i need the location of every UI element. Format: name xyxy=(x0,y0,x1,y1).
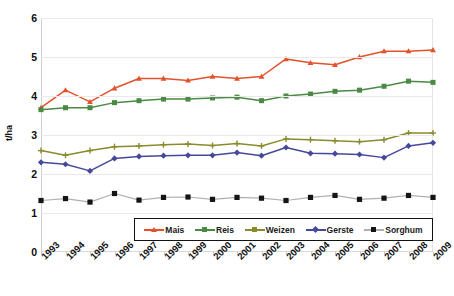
y-tick-label: 3 xyxy=(15,130,37,140)
legend-label: Sorghum xyxy=(385,225,422,235)
series-sorghum xyxy=(38,191,435,205)
legend-label: Gerste xyxy=(327,225,354,235)
grid-line xyxy=(41,213,433,214)
legend-swatch-icon xyxy=(245,225,265,234)
grid-line xyxy=(41,174,433,175)
legend-swatch-icon xyxy=(306,225,326,234)
y-tick-label: 0 xyxy=(15,247,37,257)
x-tick-label: 2009 xyxy=(431,239,454,262)
grid-line xyxy=(41,96,433,97)
legend-item-gerste[interactable]: Gerste xyxy=(306,225,354,235)
chart-legend: MaisReisWeizenGersteSorghum xyxy=(134,218,433,241)
y-tick-label: 6 xyxy=(15,13,37,23)
legend-swatch-icon xyxy=(364,225,384,234)
y-tick-label: 5 xyxy=(15,52,37,62)
legend-item-reis[interactable]: Reis xyxy=(195,225,234,235)
grid-line xyxy=(41,18,433,19)
legend-label: Weizen xyxy=(266,225,295,235)
x-axis-ticks: 1993199419951996199719981999200020012002… xyxy=(41,254,433,296)
legend-label: Reis xyxy=(216,225,234,235)
legend-label: Mais xyxy=(165,225,184,235)
plot-area xyxy=(41,18,433,252)
legend-item-mais[interactable]: Mais xyxy=(144,225,184,235)
grid-line xyxy=(41,135,433,136)
y-axis-ticks: 0123456 xyxy=(0,0,37,296)
legend-item-sorghum[interactable]: Sorghum xyxy=(364,225,422,235)
grid-line xyxy=(41,57,433,58)
y-tick-label: 4 xyxy=(15,91,37,101)
legend-swatch-icon xyxy=(195,225,215,234)
y-tick-label: 2 xyxy=(15,169,37,179)
legend-swatch-icon xyxy=(144,225,164,234)
legend-item-weizen[interactable]: Weizen xyxy=(245,225,295,235)
y-tick-label: 1 xyxy=(15,208,37,218)
